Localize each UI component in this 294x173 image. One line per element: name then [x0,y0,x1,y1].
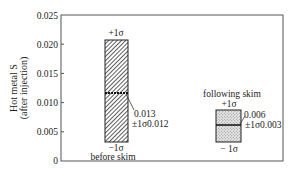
before-skim-upper-label: +1σ [108,28,123,38]
y-tick-label: 0.015 [37,69,59,79]
y-tick-label: 0.010 [37,98,59,108]
following-skim-lower-label: − 1σ [220,144,238,154]
following-skim-category-label: following skim [203,89,261,99]
y-tick-label: 0.005 [37,127,59,137]
y-tick-label: 0 [53,156,58,166]
before-skim-mean-annotation: 0.013 [134,109,156,119]
before-skim-box [105,40,134,142]
following-skim-sigma-annotation: ±1σ0.003 [245,120,282,130]
plot-frame [61,15,283,161]
before-skim-category-label: before skim [90,152,136,162]
following-skim-box [216,110,245,142]
y-tick-label: 0.025 [37,11,59,21]
following-skim-mean-annotation: 0.006 [244,110,266,120]
before-skim-sigma-annotation: ±1σ0.012 [132,119,169,129]
y-axis-sublabel: (after injection) [18,57,30,119]
y-tick-label: 0.020 [37,40,59,50]
following-skim-upper-label: +1σ [221,99,236,109]
sulfur-range-chart: 0.025 0.020 0.015 0.010 0.005 0 Hot meta… [0,0,294,173]
